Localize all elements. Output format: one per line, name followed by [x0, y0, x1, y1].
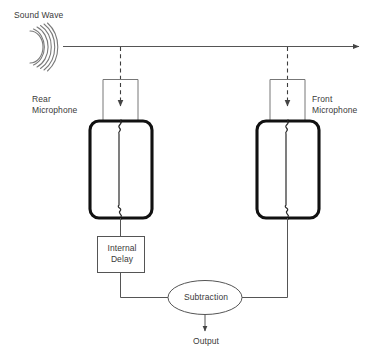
front-microphone-label: Front Microphone: [312, 94, 357, 116]
output-label: Output: [172, 336, 240, 347]
internal-delay-label: Internal Delay: [100, 243, 144, 265]
sound-wave-label: Sound Wave: [14, 10, 63, 21]
diagram-canvas: Sound Wave Rear Microphone Front Microph…: [0, 0, 386, 361]
subtraction-label: Subtraction: [172, 292, 240, 303]
sound-wave-icon: [30, 23, 58, 71]
rear-microphone-label: Rear Microphone: [32, 94, 77, 116]
front-microphone: [242, 80, 319, 298]
rear-microphone: [90, 80, 152, 237]
diagram-svg: [0, 0, 386, 361]
